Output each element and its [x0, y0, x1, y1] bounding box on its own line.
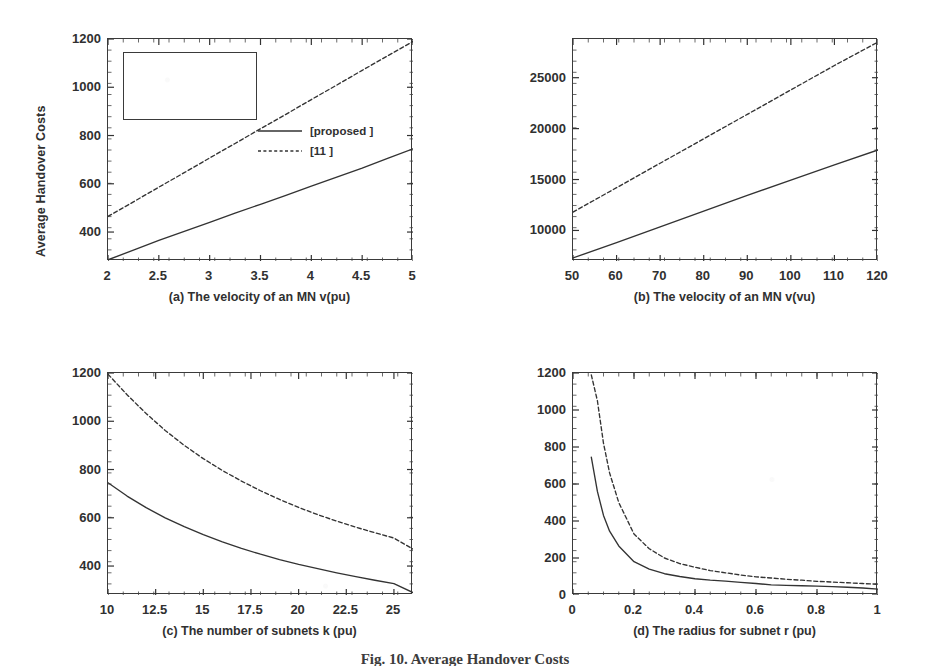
- x-tick-label: 2.5: [149, 268, 167, 283]
- plot-area-c: [107, 372, 412, 594]
- y-tick-label: 25000: [496, 69, 566, 84]
- legend-label-proposed: [proposed ]: [310, 125, 373, 137]
- x-tick-label: 4: [307, 268, 314, 283]
- y-tick-label: 20000: [496, 120, 566, 135]
- plot-area-b: [572, 38, 877, 260]
- x-tick-label: 25: [386, 602, 400, 617]
- y-tick-label: 1200: [496, 365, 566, 380]
- x-tick-label: 0.4: [685, 602, 703, 617]
- x-tick-label: 1: [873, 602, 880, 617]
- y-tick-label: 800: [496, 439, 566, 454]
- y-tick-label: 200: [496, 550, 566, 565]
- y-tick-label: 0: [496, 587, 566, 602]
- y-tick-label: 600: [31, 175, 101, 190]
- y-tick-label: 15000: [496, 171, 566, 186]
- x-axis-caption-d: (d) The radius for subnet r (pu): [633, 624, 816, 638]
- x-tick-label: 50: [565, 268, 579, 283]
- x-tick-label: 100: [779, 268, 801, 283]
- y-tick-label: 400: [31, 224, 101, 239]
- x-tick-label: 0.6: [746, 602, 764, 617]
- y-tick-label: 1000: [31, 413, 101, 428]
- x-tick-label: 90: [739, 268, 753, 283]
- x-tick-label: 12.5: [142, 602, 167, 617]
- x-tick-label: 17.5: [237, 602, 262, 617]
- legend-label-reference: [11 ]: [310, 145, 333, 157]
- x-tick-label: 5: [408, 268, 415, 283]
- y-tick-label: 800: [31, 461, 101, 476]
- plot-lines-d: [573, 373, 878, 595]
- y-tick-label: 400: [496, 513, 566, 528]
- x-tick-label: 80: [695, 268, 709, 283]
- y-tick-label: 1000: [496, 402, 566, 417]
- x-tick-label: 15: [195, 602, 209, 617]
- y-tick-label: 1200: [31, 365, 101, 380]
- x-axis-caption-b: (b) The velocity of an MN v(vu): [634, 290, 815, 304]
- x-tick-label: 0.2: [624, 602, 642, 617]
- x-tick-label: 0: [568, 602, 575, 617]
- x-tick-label: 4.5: [352, 268, 370, 283]
- x-axis-caption-a: (a) The velocity of an MN v(pu): [169, 290, 350, 304]
- x-tick-label: 2: [103, 268, 110, 283]
- y-tick-label: 600: [496, 476, 566, 491]
- figure-average-handover-costs: Average Handover Costs 40060080010001200…: [0, 0, 930, 666]
- x-tick-label: 22.5: [333, 602, 358, 617]
- plot-area-d: [572, 372, 877, 594]
- y-tick-label: 400: [31, 558, 101, 573]
- y-tick-label: 600: [31, 509, 101, 524]
- x-tick-label: 10: [100, 602, 114, 617]
- legend-item-proposed: [proposed ]: [257, 125, 373, 137]
- y-tick-label: 10000: [496, 222, 566, 237]
- x-tick-label: 110: [823, 268, 844, 283]
- legend-box: [proposed ] [11 ]: [123, 52, 257, 120]
- y-tick-label: 1200: [31, 31, 101, 46]
- x-tick-label: 60: [608, 268, 622, 283]
- x-tick-label: 20: [290, 602, 304, 617]
- y-tick-label: 1000: [31, 79, 101, 94]
- x-tick-label: 120: [866, 268, 888, 283]
- plot-lines-b: [573, 39, 878, 261]
- x-axis-caption-c: (c) The number of subnets k (pu): [162, 624, 356, 638]
- x-tick-label: 0.8: [807, 602, 825, 617]
- x-tick-label: 3: [205, 268, 212, 283]
- legend-item-reference: [11 ]: [257, 145, 333, 157]
- legend-swatch-solid-icon: [257, 126, 303, 136]
- x-tick-label: 3.5: [250, 268, 268, 283]
- y-tick-label: 800: [31, 127, 101, 142]
- figure-caption: Fig. 10. Average Handover Costs: [361, 651, 570, 666]
- x-tick-label: 70: [652, 268, 666, 283]
- legend-swatch-dashed-icon: [257, 146, 303, 156]
- plot-lines-c: [108, 373, 413, 595]
